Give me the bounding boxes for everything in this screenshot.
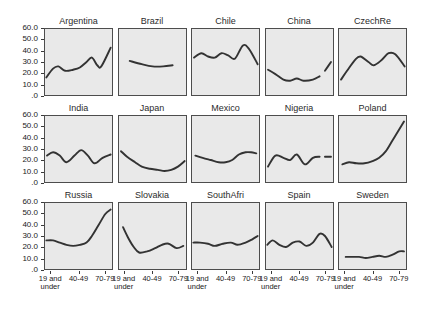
panel-brazil	[118, 28, 187, 96]
y-tick-mark	[41, 236, 44, 237]
panel-czechre	[338, 28, 407, 96]
y-tick-label: 60.0	[0, 110, 38, 119]
series-line	[194, 45, 258, 64]
panel-title-slovakia: Slovakia	[118, 190, 187, 200]
y-tick-label: 20.0	[0, 155, 38, 164]
panel-title-poland: Poland	[338, 103, 407, 113]
y-tick-mark	[41, 85, 44, 86]
y-tick-mark	[41, 62, 44, 63]
y-tick-label: 60.0	[0, 23, 38, 32]
panel-spain	[265, 202, 334, 270]
series-line	[195, 152, 256, 162]
series-line	[341, 53, 405, 80]
y-tick-mark	[41, 51, 44, 52]
panel-title-russia: Russia	[44, 190, 113, 200]
panel-title-southafri: SouthAfri	[191, 190, 260, 200]
panel-title-japan: Japan	[118, 103, 187, 113]
chart-figure: ArgentinaBrazilChileChinaCzechReIndiaJap…	[0, 0, 428, 316]
panel-chile	[191, 28, 260, 96]
series-line	[129, 61, 172, 67]
panel-title-nigeria: Nigeria	[265, 103, 334, 113]
panel-title-spain: Spain	[265, 190, 334, 200]
panel-title-mexico: Mexico	[191, 103, 260, 113]
y-tick-mark	[41, 149, 44, 150]
panel-russia	[44, 202, 113, 270]
y-tick-mark	[41, 138, 44, 139]
y-tick-label: 50.0	[0, 34, 38, 43]
y-tick-mark	[41, 28, 44, 29]
panel-poland	[338, 115, 407, 183]
panel-sweden	[338, 202, 407, 270]
series-line	[268, 154, 320, 166]
y-tick-mark	[41, 160, 44, 161]
panel-slovakia	[118, 202, 187, 270]
y-tick-mark	[41, 96, 44, 97]
series-line	[268, 70, 320, 81]
panel-southafri	[191, 202, 260, 270]
y-tick-label: .0	[0, 91, 38, 100]
panel-nigeria	[265, 115, 334, 183]
y-tick-mark	[41, 213, 44, 214]
y-tick-mark	[41, 247, 44, 248]
panel-china	[265, 28, 334, 96]
panel-title-china: China	[265, 16, 334, 26]
y-tick-label: 30.0	[0, 231, 38, 240]
y-tick-label: 60.0	[0, 197, 38, 206]
panel-title-argentina: Argentina	[44, 16, 113, 26]
panel-india	[44, 115, 113, 183]
series-line	[267, 233, 331, 247]
series-line	[346, 251, 404, 258]
series-line	[47, 150, 111, 163]
y-tick-label: 40.0	[0, 46, 38, 55]
y-tick-label: 20.0	[0, 68, 38, 77]
y-tick-mark	[41, 172, 44, 173]
y-tick-label: 40.0	[0, 133, 38, 142]
y-tick-label: 20.0	[0, 242, 38, 251]
panel-title-chile: Chile	[191, 16, 260, 26]
y-tick-mark	[41, 126, 44, 127]
y-tick-label: 10.0	[0, 167, 38, 176]
y-tick-mark	[41, 115, 44, 116]
y-tick-label: 30.0	[0, 57, 38, 66]
y-tick-label: 50.0	[0, 208, 38, 217]
y-tick-label: 10.0	[0, 80, 38, 89]
series-line	[46, 210, 110, 246]
y-tick-mark	[41, 270, 44, 271]
y-tick-mark	[41, 183, 44, 184]
y-tick-label: 40.0	[0, 220, 38, 229]
panel-japan	[118, 115, 187, 183]
panel-title-india: India	[44, 103, 113, 113]
series-line	[121, 151, 185, 171]
y-tick-label: 30.0	[0, 144, 38, 153]
y-tick-label: 50.0	[0, 121, 38, 130]
panel-title-czechre: CzechRe	[338, 16, 407, 26]
y-tick-label: 10.0	[0, 254, 38, 263]
series-line-segment	[324, 62, 330, 71]
y-tick-mark	[41, 202, 44, 203]
x-tick-label: 70-79	[382, 275, 416, 283]
panel-title-sweden: Sweden	[338, 190, 407, 200]
panel-argentina	[44, 28, 113, 96]
panel-mexico	[191, 115, 260, 183]
series-line	[342, 121, 404, 164]
panel-title-brazil: Brazil	[118, 16, 187, 26]
series-line	[123, 227, 183, 253]
y-tick-label: .0	[0, 178, 38, 187]
y-tick-label: .0	[0, 265, 38, 274]
series-line	[46, 48, 110, 78]
y-tick-mark	[41, 39, 44, 40]
y-tick-mark	[41, 73, 44, 74]
y-tick-mark	[41, 225, 44, 226]
series-line	[193, 236, 257, 246]
y-tick-mark	[41, 259, 44, 260]
